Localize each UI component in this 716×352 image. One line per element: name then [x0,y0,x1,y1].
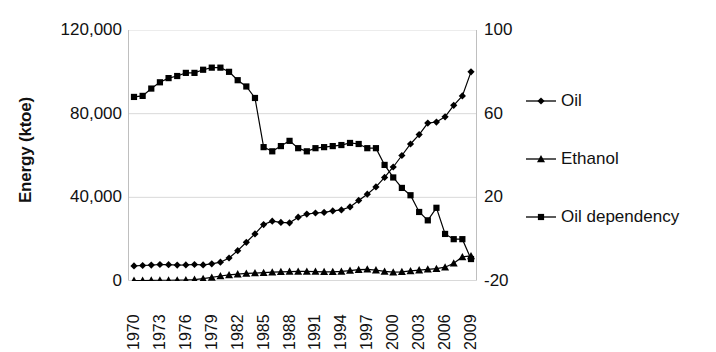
data-point-square [157,79,163,85]
data-point-diamond [295,214,302,221]
legend-item-oil[interactable]: Oil [524,92,582,109]
right-axis-tick-label: -20 [484,272,509,289]
data-point-diamond [321,209,328,216]
legend-marker-square-icon [524,210,558,224]
legend-label: Ethanol [561,150,619,167]
series-line [134,68,471,259]
data-point-square [338,142,344,148]
x-axis-tick-labels: 1970197319761979198219851988199119941997… [128,284,477,352]
data-point-square [399,185,405,191]
data-point-square [200,67,206,73]
data-point-square [451,236,457,242]
x-axis-tick-label: 1976 [178,284,194,350]
data-point-square [295,145,301,151]
data-point-square [468,256,474,262]
data-point-square [347,140,353,146]
data-point-square [373,145,379,151]
data-point-diamond [148,262,155,269]
data-point-square [217,65,223,71]
legend-label: Oil [561,92,582,109]
data-point-square [304,148,310,154]
data-point-square [269,148,275,154]
series-line [134,256,471,281]
data-point-square [459,236,465,242]
y-axis-title-text: Energy (ktoe) [16,97,36,203]
data-point-square [356,141,362,147]
data-point-square [252,95,258,101]
data-point-square [407,192,413,198]
data-point-square [235,77,241,83]
data-point-square [442,231,448,237]
data-point-square [390,174,396,180]
data-point-diamond [165,261,172,268]
data-point-square [425,217,431,223]
left-axis-tick-label: 120,000 [61,21,122,38]
x-axis-tick-label: 2009 [463,284,479,350]
data-point-square [416,209,422,215]
data-point-diamond [208,260,215,267]
data-point-square [433,205,439,211]
data-point-diamond [156,261,163,268]
data-point-diamond [174,262,181,269]
x-axis-tick-label: 2000 [385,284,401,350]
left-axis-tick-label: 80,000 [70,105,122,122]
data-point-diamond [130,262,137,269]
data-point-square [330,143,336,149]
right-axis-tick-label: 60 [484,105,503,122]
chart-figure: Energy (ktoe) 040,00080,000120,000 -2020… [0,0,716,352]
data-point-diamond [467,68,474,75]
data-point-square [183,70,189,76]
left-axis-tick-label: 0 [113,272,122,289]
x-axis-tick-label: 1982 [230,284,246,350]
data-point-diamond [182,261,189,268]
plot-svg [128,30,477,281]
data-point-diamond [312,209,319,216]
data-point-diamond [433,118,440,125]
legend-item-ethanol[interactable]: Ethanol [524,150,619,167]
right-axis-tick-label: 20 [484,188,503,205]
data-point-diamond [200,261,207,268]
x-axis-tick-label: 1994 [333,284,349,350]
x-axis-tick-label: 1985 [256,284,272,350]
data-point-square [261,144,267,150]
chart-legend: OilEthanolOil dependency [524,72,714,252]
legend-item-oil-dependency[interactable]: Oil dependency [524,208,679,225]
data-point-diamond [191,261,198,268]
x-axis-tick-label: 1988 [282,284,298,350]
data-point-square [226,69,232,75]
data-point-diamond [329,207,336,214]
plot-area [128,30,477,281]
data-point-square [538,213,544,219]
x-axis-tick-label: 1991 [307,284,323,350]
data-point-square [364,145,370,151]
right-axis-tick-label: 100 [484,21,512,38]
data-point-square [243,83,249,89]
series-oil-dependency [131,65,474,263]
legend-marker-diamond-icon [524,94,558,108]
series-oil [130,68,474,269]
series-ethanol [130,252,475,281]
data-point-square [148,85,154,91]
x-axis-tick-label: 1997 [359,284,375,350]
x-axis-tick-label: 2003 [411,284,427,350]
data-point-square [321,144,327,150]
data-point-square [140,93,146,99]
series-line [134,72,471,266]
data-point-diamond [139,262,146,269]
data-point-diamond [277,219,284,226]
x-axis-tick-label: 1970 [126,284,142,350]
x-axis-tick-label: 1979 [204,284,220,350]
legend-label: Oil dependency [561,208,679,225]
data-point-diamond [303,210,310,217]
left-axis-tick-label: 40,000 [70,188,122,205]
data-point-square [165,75,171,81]
left-axis-tick-labels: 040,00080,000120,000 [40,0,122,352]
data-point-diamond [537,97,544,104]
data-point-diamond [269,218,276,225]
data-point-diamond [286,219,293,226]
x-axis-tick-label: 2006 [437,284,453,350]
data-point-triangle [441,263,449,270]
data-point-square [174,73,180,79]
data-point-square [312,145,318,151]
data-point-square [381,162,387,168]
